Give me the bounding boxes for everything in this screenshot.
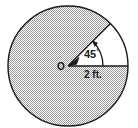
diagram-canvas: O 45° 2 ft. xyxy=(0,0,138,128)
angle-label-value: 45 xyxy=(84,48,96,60)
degree-symbol: ° xyxy=(96,48,99,55)
center-label: O xyxy=(57,61,65,72)
circle-diagram-figure: O 45° 2 ft. xyxy=(0,0,138,128)
radius-label: 2 ft. xyxy=(84,69,102,80)
